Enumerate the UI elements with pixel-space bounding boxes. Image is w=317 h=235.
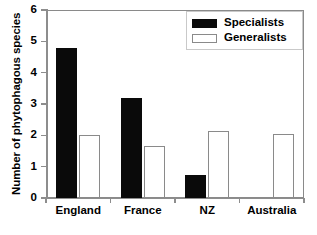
bar-nz-specialists: [185, 175, 206, 199]
legend-item-specialists: Specialists: [192, 16, 297, 30]
x-tick: [110, 198, 111, 203]
bar-chart-figure: Number of phytophagous species 0123456 E…: [0, 0, 317, 235]
y-axis-line: [46, 9, 48, 199]
chart-legend: Specialists Generalists: [186, 11, 303, 50]
x-tick: [174, 198, 175, 203]
y-tick: [41, 72, 46, 73]
y-tick-label: 3: [7, 98, 37, 110]
legend-item-generalists: Generalists: [192, 31, 297, 45]
figure-caption: [6, 228, 311, 235]
bar-france-specialists: [121, 98, 142, 198]
y-tick-label: 5: [7, 35, 37, 47]
legend-swatch-generalists-icon: [192, 34, 217, 43]
y-tick-label: 1: [7, 161, 37, 173]
y-tick-label: 6: [7, 4, 37, 16]
bar-nz-generalists: [208, 131, 229, 198]
x-tick: [239, 198, 240, 203]
bar-australia-generalists: [273, 134, 294, 198]
y-tick: [41, 135, 46, 136]
y-tick: [41, 41, 46, 42]
y-tick: [41, 103, 46, 104]
legend-swatch-specialists-icon: [192, 19, 217, 28]
x-tick: [45, 198, 46, 203]
x-tick: [303, 198, 304, 203]
x-tick-label: Australia: [227, 205, 317, 217]
y-tick: [41, 166, 46, 167]
legend-label-generalists: Generalists: [224, 32, 287, 44]
y-tick-label: 0: [7, 192, 37, 204]
bar-england-generalists: [79, 135, 100, 198]
y-tick-label: 4: [7, 67, 37, 79]
y-tick-label: 2: [7, 129, 37, 141]
bar-france-generalists: [144, 146, 165, 198]
bar-england-specialists: [56, 48, 77, 198]
y-tick: [41, 9, 46, 10]
legend-label-specialists: Specialists: [224, 17, 284, 29]
